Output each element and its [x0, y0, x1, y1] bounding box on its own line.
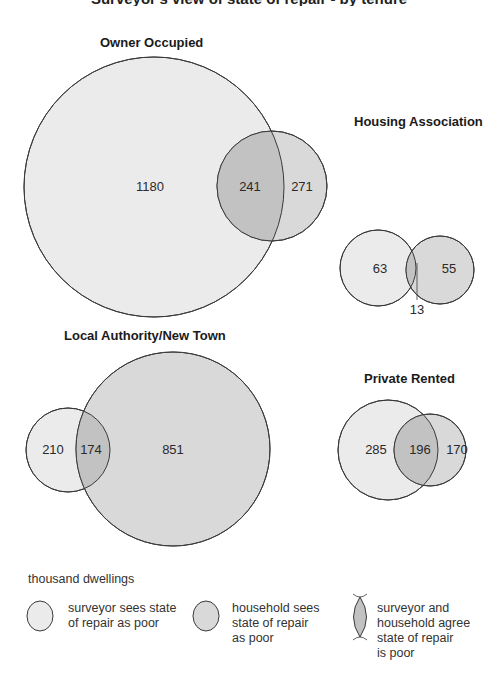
legend-line: household agree [377, 616, 470, 630]
value-household-only: 851 [162, 442, 184, 457]
legend-line: household sees [232, 601, 320, 615]
units-label: thousand dwellings [28, 572, 134, 586]
panel-title: Housing Association [354, 114, 483, 129]
value-both: 196 [409, 442, 431, 457]
legend-item-overlap: surveyor and household agree state of re… [353, 594, 470, 660]
value-surveyor-only: 285 [365, 442, 387, 457]
value-household-only: 271 [291, 179, 313, 194]
overlap-swatch-icon [354, 597, 367, 637]
value-both: 13 [410, 302, 424, 317]
panel-title: Local Authority/New Town [64, 328, 226, 343]
value-both: 241 [239, 179, 261, 194]
surveyor-swatch-icon [27, 601, 53, 631]
panel-local-authority: Local Authority/New Town 210 174 851 [26, 328, 270, 546]
value-household-only: 55 [442, 261, 456, 276]
value-both: 174 [80, 442, 102, 457]
legend-item-surveyor: surveyor sees state of repair as poor [27, 601, 176, 631]
legend-line: state of repair [377, 631, 453, 645]
household-swatch-icon [193, 601, 219, 631]
legend-line: as poor [232, 631, 274, 645]
legend-line: state of repair [232, 616, 308, 630]
panel-title: Owner Occupied [100, 35, 203, 50]
legend-line: is poor [377, 646, 415, 660]
legend-line: of repair as poor [68, 616, 159, 630]
legend-line: surveyor sees state [68, 601, 176, 615]
panel-private-rented: Private Rented 285 196 170 [338, 371, 468, 500]
panel-housing-association: Housing Association 63 55 13 [340, 114, 483, 317]
value-household-only: 170 [446, 442, 468, 457]
panel-owner-occupied: Owner Occupied 1180 241 271 [24, 35, 327, 317]
legend-line: surveyor and [377, 601, 449, 615]
value-surveyor-only: 210 [42, 442, 64, 457]
value-surveyor-only: 1180 [136, 179, 164, 194]
value-surveyor-only: 63 [373, 261, 387, 276]
panel-title: Private Rented [364, 371, 455, 386]
venn-figure: Owner Occupied 1180 241 271 Housing Asso… [0, 0, 498, 688]
legend: thousand dwellings surveyor sees state o… [27, 572, 470, 660]
legend-item-household: household sees state of repair as poor [193, 601, 320, 645]
